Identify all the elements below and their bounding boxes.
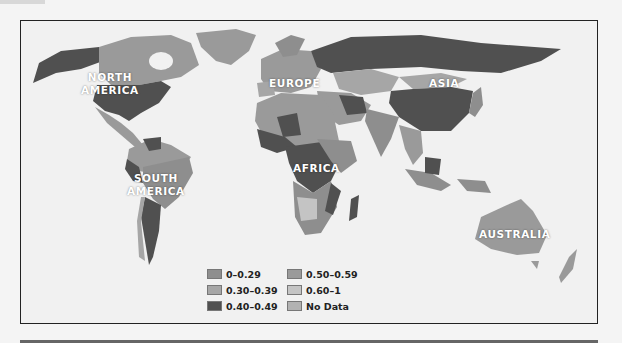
- region-label-australia: AUSTRALIA: [479, 228, 550, 241]
- label-line: NORTH: [81, 71, 139, 84]
- hudson-bay: [149, 52, 173, 70]
- legend-swatch: [207, 285, 222, 295]
- australia: [475, 199, 547, 255]
- legend-item: 0.40–0.49: [207, 300, 278, 312]
- top-tab-decoration: [0, 0, 45, 4]
- legend-swatch: [287, 301, 302, 311]
- region-label-south-america: SOUTH AMERICA: [127, 172, 185, 198]
- legend-item: 0.60–1: [287, 284, 341, 296]
- papua: [457, 179, 491, 193]
- region-label-asia: ASIA: [429, 77, 459, 90]
- legend-label: 0.50–0.59: [306, 269, 358, 280]
- greenland: [196, 29, 256, 65]
- world-map-frame: NORTH AMERICA EUROPE ASIA SOUTH AMERICA …: [20, 20, 598, 324]
- southeast-asia: [399, 125, 423, 165]
- legend-item: 0–0.29: [207, 268, 261, 280]
- region-label-africa: AFRICA: [293, 162, 340, 175]
- china: [389, 87, 473, 131]
- madagascar: [349, 195, 359, 221]
- legend-label: 0.60–1: [306, 285, 341, 296]
- russia: [311, 35, 561, 73]
- legend-swatch: [287, 269, 302, 279]
- central-asia: [333, 69, 399, 95]
- legend-swatch: [207, 301, 222, 311]
- region-label-north-america: NORTH AMERICA: [81, 71, 139, 97]
- legend-swatch: [207, 269, 222, 279]
- legend-item: No Data: [287, 300, 349, 312]
- label-line: AMERICA: [81, 84, 139, 97]
- legend-item: 0.50–0.59: [287, 268, 358, 280]
- legend-swatch: [287, 285, 302, 295]
- borneo: [425, 157, 441, 175]
- india: [365, 109, 399, 157]
- tasmania: [531, 261, 539, 269]
- label-line: SOUTH: [127, 172, 185, 185]
- legend-label: No Data: [306, 301, 349, 312]
- legend-item: 0.30–0.39: [207, 284, 278, 296]
- region-label-europe: EUROPE: [269, 77, 320, 90]
- label-line: AMERICA: [127, 185, 185, 198]
- legend-label: 0.40–0.49: [226, 301, 278, 312]
- legend-label: 0–0.29: [226, 269, 261, 280]
- legend-label: 0.30–0.39: [226, 285, 278, 296]
- new-zealand: [559, 249, 577, 283]
